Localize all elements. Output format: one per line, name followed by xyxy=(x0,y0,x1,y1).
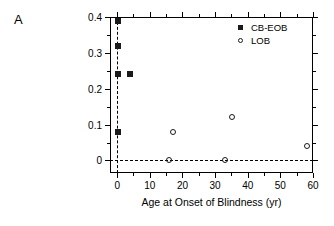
y-tick-minor-right xyxy=(313,71,316,72)
data-point-cb-eob xyxy=(115,129,121,135)
x-tick-minor xyxy=(264,173,265,176)
x-tick-major xyxy=(215,173,216,178)
x-tick-major xyxy=(150,173,151,178)
data-point-cb-eob xyxy=(127,71,133,77)
legend-marker-glyph xyxy=(238,25,243,30)
y-tick-major xyxy=(105,53,110,54)
y-tick-major xyxy=(105,17,110,18)
x-tick-minor-top xyxy=(199,14,200,17)
x-tick-major xyxy=(117,173,118,178)
x-tick-major-top xyxy=(248,12,249,17)
y-tick-major-right xyxy=(313,53,318,54)
x-tick-minor-top xyxy=(231,14,232,17)
y-tick-label: 0.1 xyxy=(68,119,102,130)
legend-label: CB-EOB xyxy=(251,21,287,34)
x-tick-label: 60 xyxy=(298,180,328,191)
x-tick-major-top xyxy=(215,12,216,17)
y-tick-major xyxy=(105,160,110,161)
reference-line-x xyxy=(117,17,118,173)
y-tick-minor-right xyxy=(313,35,316,36)
y-tick-minor xyxy=(107,35,110,36)
x-tick-minor-top xyxy=(297,14,298,17)
panel-label: A xyxy=(14,12,23,27)
y-tick-major-right xyxy=(313,160,318,161)
data-point-lob xyxy=(229,114,235,120)
data-point-cb-eob xyxy=(115,71,121,77)
x-tick-minor-top xyxy=(166,14,167,17)
x-tick-minor-top xyxy=(264,14,265,17)
y-tick-minor xyxy=(107,107,110,108)
open-circle-icon xyxy=(233,38,247,43)
x-tick-major xyxy=(182,173,183,178)
y-tick-label: 0 xyxy=(68,155,102,166)
y-tick-minor-right xyxy=(313,107,316,108)
x-tick-label: 30 xyxy=(200,180,230,191)
y-tick-label: 0.4 xyxy=(68,12,102,23)
data-point-cb-eob xyxy=(115,43,121,49)
y-tick-major xyxy=(105,89,110,90)
y-tick-minor xyxy=(107,71,110,72)
y-tick-minor xyxy=(107,143,110,144)
y-tick-major xyxy=(105,125,110,126)
data-point-lob xyxy=(170,129,176,135)
data-point-lob xyxy=(166,157,172,163)
x-tick-label: 20 xyxy=(167,180,197,191)
x-tick-major-top xyxy=(182,12,183,17)
reference-line-y xyxy=(110,160,313,161)
x-tick-minor xyxy=(133,173,134,176)
x-tick-major xyxy=(280,173,281,178)
x-axis-title: Age at Onset of Blindness (yr) xyxy=(110,196,313,208)
data-point-cb-eob xyxy=(115,18,121,24)
x-tick-major-top xyxy=(280,12,281,17)
y-tick-minor-right xyxy=(313,143,316,144)
x-tick-label: 50 xyxy=(265,180,295,191)
data-point-lob xyxy=(304,143,310,149)
x-tick-label: 0 xyxy=(102,180,132,191)
chart-legend: CB-EOBLOB xyxy=(233,21,287,47)
x-tick-minor xyxy=(297,173,298,176)
x-tick-major-top xyxy=(313,12,314,17)
x-tick-minor xyxy=(166,173,167,176)
x-tick-major xyxy=(248,173,249,178)
x-tick-label: 40 xyxy=(233,180,263,191)
filled-square-icon xyxy=(233,25,247,30)
legend-item-cb-eob: CB-EOB xyxy=(233,21,287,34)
y-tick-label: 0.3 xyxy=(68,47,102,58)
x-tick-major-top xyxy=(150,12,151,17)
x-tick-minor xyxy=(199,173,200,176)
data-point-lob xyxy=(222,157,228,163)
legend-marker-glyph xyxy=(238,38,243,43)
x-tick-minor xyxy=(231,173,232,176)
y-tick-label: 0.2 xyxy=(68,83,102,94)
legend-item-lob: LOB xyxy=(233,34,287,47)
x-tick-major-top xyxy=(117,12,118,17)
legend-label: LOB xyxy=(251,34,270,47)
x-tick-label: 10 xyxy=(135,180,165,191)
y-tick-major-right xyxy=(313,125,318,126)
y-tick-major-right xyxy=(313,89,318,90)
figure-panel-a: A Difference in Error Rates Between Stim… xyxy=(0,0,334,226)
y-tick-major-right xyxy=(313,17,318,18)
x-tick-major xyxy=(313,173,314,178)
x-tick-minor-top xyxy=(133,14,134,17)
